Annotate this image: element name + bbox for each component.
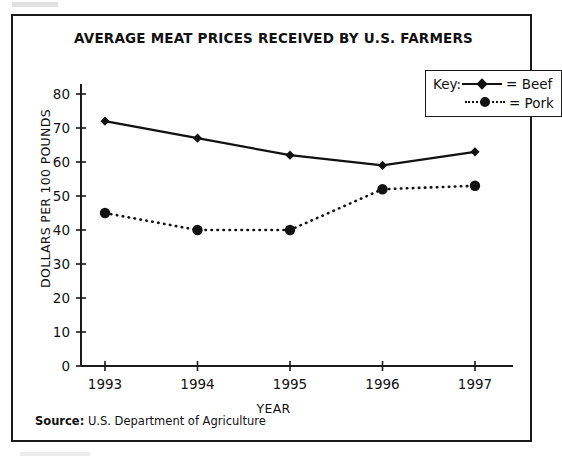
data-point-beef [378,161,387,170]
data-point-beef [470,147,479,156]
y-tick-label: 80 [53,86,70,102]
x-tick-label: 1996 [365,376,399,392]
y-tick-label: 10 [53,324,70,340]
y-tick-label: 50 [53,188,70,204]
scan-artifact-bottom [20,452,90,456]
data-point-pork [285,225,295,235]
y-tick-label: 40 [53,222,70,238]
source-text: U.S. Department of Agriculture [88,414,266,428]
series-layer [100,117,480,236]
scan-artifact-top [12,2,58,7]
chart-frame: AVERAGE MEAT PRICES RECEIVED BY U.S. FAR… [11,14,532,442]
axes-layer: 0102030405060708019931994199519961997 [53,84,513,392]
y-tick-label: 60 [53,154,70,170]
y-tick-label: 70 [53,120,70,136]
source-label: Source: [35,414,84,428]
y-tick-label: 20 [53,290,70,306]
x-tick-label: 1997 [458,376,492,392]
source-note: Source: U.S. Department of Agriculture [35,414,266,428]
x-tick-label: 1995 [273,376,307,392]
x-tick-label: 1993 [88,376,122,392]
data-point-pork [377,184,387,194]
data-point-pork [470,181,480,191]
plot-area: 0102030405060708019931994199519961997 [13,16,534,444]
x-tick-label: 1994 [180,376,214,392]
chart-svg: 0102030405060708019931994199519961997 [13,16,534,444]
data-point-beef [285,151,294,160]
data-point-beef [100,117,109,126]
data-point-pork [100,208,110,218]
y-tick-label: 0 [61,358,70,374]
y-axis-title: DOLLARS PER 100 POUNDS [38,104,53,294]
data-point-beef [193,134,202,143]
data-point-pork [192,225,202,235]
y-tick-label: 30 [53,256,70,272]
series-line-pork [105,186,475,230]
